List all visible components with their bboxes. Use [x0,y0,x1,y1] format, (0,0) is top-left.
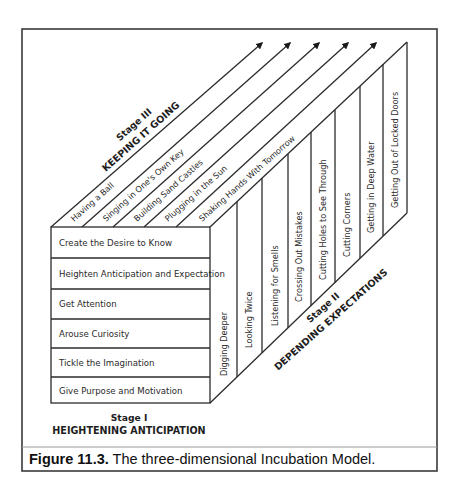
figure-caption: Figure 11.3. The three-dimensional Incub… [29,451,375,467]
front-row-label: Tickle the Imagination [58,358,155,368]
side-column-label: Getting Out of Locked Doors [390,92,400,208]
side-column-label: Looking Twice [244,291,254,348]
caption-label: Figure 11.3. [29,451,109,467]
side-column-label: Getting in Deep Water [366,141,376,233]
front-row-label: Give Purpose and Motivation [59,386,183,396]
side-column-label: Listening for Smells [270,245,280,326]
stage1-subtitle: HEIGHTENING ANTICIPATION [52,425,205,436]
side-column-label: Cutting Holes to See Through [318,159,328,280]
side-column-label: Cutting Corners [342,193,352,257]
front-row-label: Get Attention [59,299,117,309]
front-row-label: Arouse Curiosity [59,329,129,339]
caption-text: The three-dimensional Incubation Model. [109,451,376,467]
stage2-side-face: Digging Deeper Looking Twice Listening f… [210,42,407,403]
top-face-right-edge [210,42,407,227]
figure-frame [22,29,437,471]
side-face-bottom-edge [210,213,407,403]
front-row-label: Heighten Anticipation and Expectation [59,269,225,279]
stage2-subtitle: DEPENDING EXPECTATIONS [272,266,390,372]
stage1-title: Stage I [111,412,148,423]
stage3-top-face: Having a Ball Singing in One's Own Key B… [51,42,407,227]
incubation-model-figure: Having a Ball Singing in One's Own Key B… [0,0,459,494]
stage1-front-face: Create the Desire to Know Heighten Antic… [51,227,225,436]
side-column-label: Digging Deeper [219,311,229,376]
side-column-label: Crossing Out Mistakes [294,211,304,302]
front-row-label: Create the Desire to Know [59,238,172,248]
